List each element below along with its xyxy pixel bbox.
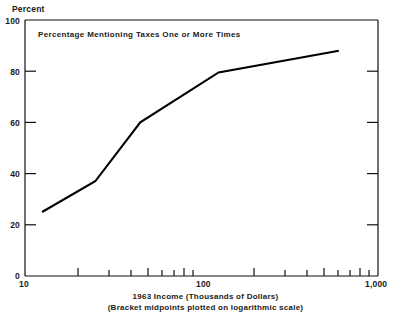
x-axis-minor-ticks	[78, 268, 369, 276]
x-axis-caption-secondary: (Bracket midpoints plotted on logarithmi…	[0, 303, 411, 312]
x-axis-caption-primary: 1963 Income (Thousands of Dollars)	[0, 292, 411, 301]
x-tick-label-100: 100	[196, 279, 211, 289]
x-tick-label-10: 10	[19, 279, 29, 289]
data-series-line	[42, 51, 339, 212]
y-axis-ticks-right	[367, 71, 378, 225]
chart-figure: Percent 100 80 60 40 20 0 10 100 1,000 P…	[0, 0, 411, 317]
axis-frame	[25, 20, 378, 276]
y-axis-ticks-left	[25, 71, 36, 225]
y-tick-label-60: 60	[2, 118, 20, 128]
y-tick-label-100: 100	[2, 16, 20, 26]
y-axis-title: Percent	[12, 4, 45, 14]
y-tick-label-80: 80	[2, 67, 20, 77]
y-tick-label-20: 20	[2, 220, 20, 230]
y-tick-label-40: 40	[2, 169, 20, 179]
series-annotation-label: Percentage Mentioning Taxes One or More …	[38, 30, 241, 39]
chart-plot-area	[0, 0, 411, 317]
y-tick-label-0: 0	[2, 271, 20, 281]
x-tick-label-1000: 1,000	[365, 279, 387, 289]
